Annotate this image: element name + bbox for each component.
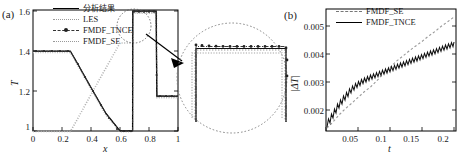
figure-root: (a) T 1.6 1.4 1.2 1 0 0.2 0.4 0.6 0.8 1 … — [0, 0, 466, 159]
magnifier-inset-circle — [177, 23, 287, 133]
panel-a-inset — [0, 0, 290, 159]
panel-b-plot — [280, 0, 466, 159]
inset-series-analytic — [196, 49, 286, 123]
inset-series-fmdf-se — [192, 53, 282, 118]
inset-series-fmdf-tnce — [196, 47, 286, 123]
series-fmdf-se-b — [327, 17, 454, 128]
panel-b: (b) |ΔT| 0.005 0.004 0.003 0.002 0.05 0.… — [280, 0, 466, 159]
panel-a: (a) T 1.6 1.4 1.2 1 0 0.2 0.4 0.6 0.8 1 … — [0, 0, 290, 159]
series-fmdf-tnce-b — [327, 42, 454, 127]
inset-series-les — [195, 50, 285, 120]
